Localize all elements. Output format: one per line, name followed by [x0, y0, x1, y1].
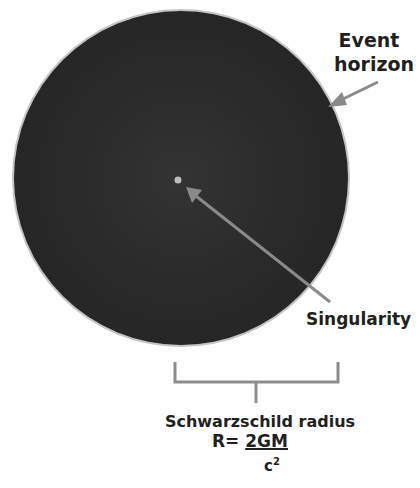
formula-denominator-exponent: 2 [273, 456, 280, 467]
schwarzschild-formula: R= 2GM [212, 431, 288, 451]
event-horizon-label-line2: horizon [334, 52, 404, 76]
formula-numerator: 2GM [245, 431, 288, 451]
singularity-dot [175, 177, 182, 184]
event-horizon-label-line1: Event [334, 28, 404, 52]
event-horizon-arrow [328, 82, 378, 107]
black-hole-disc [14, 11, 348, 345]
formula-equals: = [225, 431, 239, 451]
event-horizon-label: Event horizon [334, 28, 404, 76]
formula-denominator-base: c [264, 457, 273, 475]
singularity-label: Singularity [306, 309, 411, 329]
formula-denominator: c2 [264, 456, 280, 475]
radius-bracket [175, 362, 338, 403]
formula-lhs: R [212, 431, 225, 451]
schwarzschild-radius-label: Schwarzschild radius [150, 412, 370, 431]
